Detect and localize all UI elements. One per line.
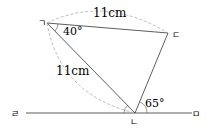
length-label-ab: 11cm — [56, 64, 89, 78]
point-label-c: ㄷ — [172, 28, 180, 41]
point-label-b: ㄴ — [130, 115, 138, 128]
angle-label-b: 65° — [145, 97, 165, 110]
triangle-diagram — [0, 0, 213, 135]
point-label-e: ㅁ — [192, 107, 200, 120]
angle-arc-a — [55, 24, 58, 31]
point-label-a: ㄱ — [38, 16, 46, 29]
length-label-ac: 11cm — [93, 6, 126, 20]
angle-label-a: 40° — [63, 25, 83, 38]
angle-arc-b-left — [124, 105, 128, 113]
point-label-d: ㄹ — [11, 107, 19, 120]
